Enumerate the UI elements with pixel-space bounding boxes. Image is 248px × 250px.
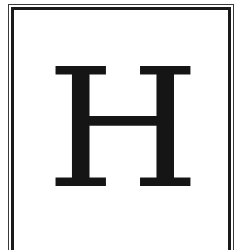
letter-h-glyph: H — [0, 48, 248, 212]
